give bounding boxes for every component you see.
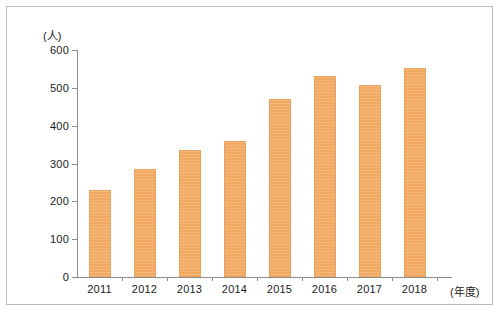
x-label-2012: 2012 bbox=[132, 283, 157, 295]
x-tick-mark bbox=[347, 277, 348, 281]
bar-2018[interactable] bbox=[404, 68, 426, 277]
x-tick-mark bbox=[437, 277, 438, 281]
y-tick-label: 100 bbox=[50, 233, 69, 245]
plot-area: 600 500 400 300 200 100 bbox=[77, 50, 447, 277]
y-tick-label: 400 bbox=[50, 120, 69, 132]
bar-2016[interactable] bbox=[314, 76, 336, 277]
x-label-2017: 2017 bbox=[357, 283, 382, 295]
x-label-2014: 2014 bbox=[222, 283, 247, 295]
x-tick-mark bbox=[302, 277, 303, 281]
chart-frame: (人) 600 500 400 300 200 bbox=[6, 6, 493, 305]
y-tick-mark bbox=[72, 201, 77, 202]
y-tick-mark bbox=[72, 50, 77, 51]
x-tick-mark bbox=[257, 277, 258, 281]
y-tick-mark bbox=[72, 164, 77, 165]
bar-2015[interactable] bbox=[269, 99, 291, 277]
x-label-2015: 2015 bbox=[267, 283, 292, 295]
y-tick-mark bbox=[72, 277, 77, 278]
x-label-2018: 2018 bbox=[402, 283, 427, 295]
bar-2014[interactable] bbox=[224, 141, 246, 277]
y-tick-label: 300 bbox=[50, 158, 69, 170]
y-tick-mark bbox=[72, 88, 77, 89]
x-tick-mark bbox=[392, 277, 393, 281]
y-axis-line bbox=[77, 50, 78, 277]
y-tick-mark bbox=[72, 239, 77, 240]
bar-2017[interactable] bbox=[359, 85, 381, 277]
x-axis-line bbox=[77, 277, 452, 278]
bar-2012[interactable] bbox=[134, 169, 156, 277]
y-tick-mark bbox=[72, 126, 77, 127]
bar-2013[interactable] bbox=[179, 150, 201, 277]
x-label-2016: 2016 bbox=[312, 283, 337, 295]
y-tick-label: 600 bbox=[50, 44, 69, 56]
x-tick-mark bbox=[167, 277, 168, 281]
y-tick-label: 500 bbox=[50, 82, 69, 94]
y-tick-label: 0 bbox=[63, 271, 69, 283]
y-axis-unit-label: (人) bbox=[43, 27, 61, 43]
chart-page: (人) 600 500 400 300 200 bbox=[0, 0, 501, 313]
x-label-2011: 2011 bbox=[87, 283, 111, 295]
y-tick-label: 200 bbox=[50, 195, 69, 207]
x-tick-mark bbox=[122, 277, 123, 281]
x-label-2013: 2013 bbox=[177, 283, 202, 295]
x-tick-mark bbox=[212, 277, 213, 281]
bar-2011[interactable] bbox=[89, 190, 111, 277]
x-axis-unit-label: (年度) bbox=[450, 283, 479, 299]
